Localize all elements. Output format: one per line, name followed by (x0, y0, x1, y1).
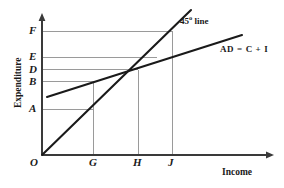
origin-label: O (30, 157, 38, 168)
y-tick-label-a: A (29, 103, 36, 114)
expenditure-income-chart: F E D B A O G H J Expenditure Income 45o… (0, 0, 284, 188)
y-tick-label-e: E (29, 51, 36, 62)
horizontal-guide-lines (42, 31, 172, 109)
y-axis-title: Expenditure (14, 57, 24, 108)
line-aggregate-demand (47, 35, 242, 97)
x-axis-arrowhead (266, 152, 274, 159)
line-45-degree (42, 10, 191, 155)
y-axis (39, 13, 46, 155)
x-axis-title: Income (222, 168, 252, 178)
x-tick-label-g: G (89, 157, 97, 168)
y-axis-arrowhead (39, 13, 46, 21)
y-tick-label-f: F (29, 25, 36, 36)
y-tick-label-b: B (29, 76, 36, 87)
y-tick-label-d: D (29, 64, 37, 75)
line-45-degree-label: 45o line (180, 15, 209, 26)
x-tick-label-h: H (133, 157, 142, 168)
chart-plot-area (0, 0, 284, 188)
x-tick-label-j: J (168, 157, 174, 168)
x-axis (42, 152, 274, 159)
line-45-degree-label-number: 45 (180, 16, 189, 26)
line-45-degree-label-suffix: line (192, 16, 208, 26)
line-aggregate-demand-label: AD = C + I (220, 45, 268, 54)
